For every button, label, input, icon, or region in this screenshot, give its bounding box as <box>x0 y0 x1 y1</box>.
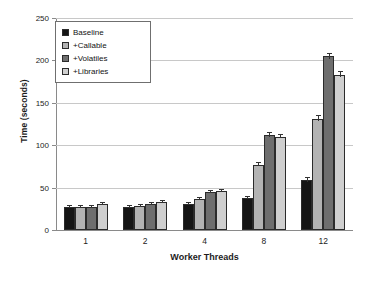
bar <box>123 207 134 230</box>
legend-swatch-icon <box>62 68 69 75</box>
x-tick-label: 2 <box>125 236 165 246</box>
error-bar-cap <box>138 204 143 205</box>
bar <box>183 204 194 230</box>
error-bar-cap <box>278 134 283 135</box>
legend-item: +Volatiles <box>62 52 145 65</box>
legend-label: +Callable <box>73 42 107 50</box>
error-bar <box>247 197 248 199</box>
error-bar-cap <box>338 71 343 72</box>
legend-item: Baseline <box>62 26 145 39</box>
bar <box>334 75 345 230</box>
error-bar-cap <box>186 202 191 203</box>
error-bar-cap <box>78 205 83 206</box>
error-bar <box>129 206 130 208</box>
bar <box>242 198 253 230</box>
bar <box>275 137 286 230</box>
error-bar <box>280 135 281 138</box>
bar <box>323 56 334 230</box>
error-bar <box>318 116 319 121</box>
error-bar-cap <box>160 200 165 201</box>
x-tick-label: 4 <box>185 236 225 246</box>
bar <box>86 207 97 230</box>
error-bar <box>162 201 163 203</box>
gridline <box>56 230 353 231</box>
bar <box>75 207 86 230</box>
error-bar <box>340 72 341 77</box>
y-tick-label: 100 <box>9 141 49 150</box>
bar <box>312 119 323 230</box>
y-tick-label: 250 <box>9 14 49 23</box>
legend-item: +Libraries <box>62 65 145 78</box>
legend-label: Baseline <box>73 29 104 37</box>
bar-group <box>242 18 286 230</box>
error-bar-cap <box>197 197 202 198</box>
error-bar-cap <box>327 53 332 54</box>
error-bar-cap <box>267 132 272 133</box>
legend-swatch-icon <box>62 42 69 49</box>
bar <box>194 199 205 230</box>
error-bar <box>91 206 92 208</box>
legend-swatch-icon <box>62 29 69 36</box>
x-axis-title: Worker Threads <box>56 252 353 262</box>
bar-group <box>301 18 345 230</box>
error-bar <box>210 191 211 193</box>
legend-swatch-icon <box>62 55 69 62</box>
bar-chart-figure: Time (seconds) 050100150200250 124812 Wo… <box>0 0 367 281</box>
bar <box>97 204 108 230</box>
bar <box>253 165 264 230</box>
error-bar-cap <box>305 177 310 178</box>
bar <box>145 204 156 230</box>
bar <box>64 207 75 230</box>
error-bar-cap <box>245 196 250 197</box>
bar <box>156 202 167 230</box>
error-bar <box>307 178 308 181</box>
legend-item: +Callable <box>62 39 145 52</box>
error-bar <box>69 206 70 208</box>
error-bar-cap <box>256 162 261 163</box>
bar <box>264 135 275 230</box>
error-bar-cap <box>149 202 154 203</box>
error-bar-cap <box>100 202 105 203</box>
error-bar <box>102 203 103 205</box>
bar <box>205 192 216 230</box>
y-tick-label: 50 <box>9 183 49 192</box>
legend-label: +Volatiles <box>73 55 107 63</box>
legend-label: +Libraries <box>73 68 108 76</box>
error-bar <box>199 198 200 200</box>
error-bar <box>80 206 81 208</box>
legend: Baseline+Callable+Volatiles+Libraries <box>55 21 151 83</box>
bar-group <box>183 18 227 230</box>
error-bar-cap <box>67 205 72 206</box>
error-bar <box>151 203 152 205</box>
error-bar-cap <box>89 205 94 206</box>
y-tick-label: 0 <box>9 226 49 235</box>
x-tick-label: 12 <box>303 236 343 246</box>
bar <box>134 206 145 230</box>
x-tick-label: 8 <box>244 236 284 246</box>
y-tick-label: 200 <box>9 56 49 65</box>
error-bar <box>221 190 222 192</box>
error-bar <box>329 54 330 59</box>
error-bar <box>140 205 141 207</box>
error-bar <box>269 133 270 136</box>
bar <box>216 191 227 230</box>
bar <box>301 180 312 230</box>
x-tick-label: 1 <box>66 236 106 246</box>
error-bar <box>188 203 189 205</box>
error-bar-cap <box>219 189 224 190</box>
error-bar-cap <box>316 115 321 116</box>
error-bar <box>258 163 259 166</box>
error-bar-cap <box>127 205 132 206</box>
y-tick-label: 150 <box>9 98 49 107</box>
error-bar-cap <box>208 190 213 191</box>
